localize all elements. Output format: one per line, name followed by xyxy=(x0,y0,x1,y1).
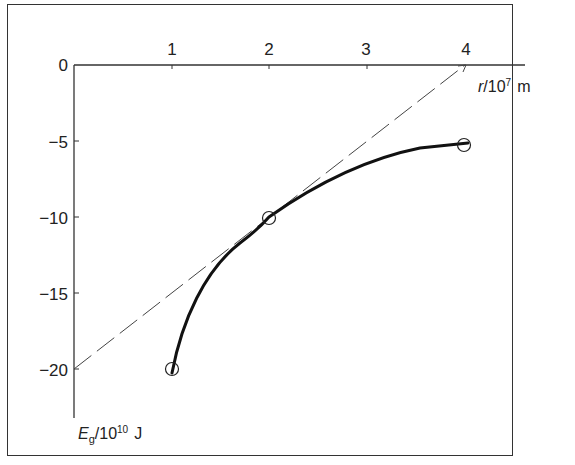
y-axis-label: Eg/1010J xyxy=(78,424,142,445)
x-tick-label-4: 4 xyxy=(461,40,470,59)
x-axis-label: r/107m xyxy=(478,77,530,95)
y-tick-label-5: −5 xyxy=(49,133,68,152)
y-tick-label-0: 0 xyxy=(59,56,68,75)
x-tick-label-2: 2 xyxy=(264,40,273,59)
x-tick-label-1: 1 xyxy=(167,40,176,59)
x-tick-label-3: 3 xyxy=(361,40,370,59)
y-tick-label-10: −10 xyxy=(39,209,68,228)
y-ticks xyxy=(74,141,79,369)
y-tick-label-15: −15 xyxy=(39,285,68,304)
tangent-end xyxy=(458,65,466,72)
chart: 1 2 3 4 0 −5 −10 −15 −20 r/107m Eg/1010J xyxy=(0,0,575,465)
y-tick-label-20: −20 xyxy=(39,361,68,380)
